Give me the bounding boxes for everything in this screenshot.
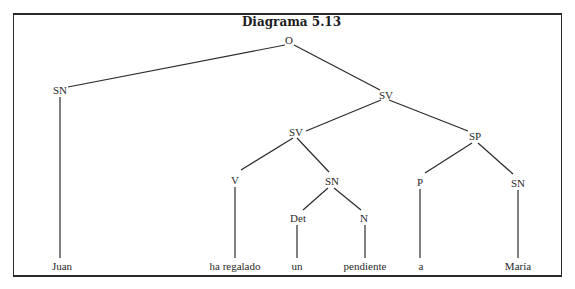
edge-sp-p xyxy=(425,143,472,173)
edge-o-sv xyxy=(294,45,380,90)
edge-sv-sn xyxy=(297,138,329,172)
leaf-juan: Juan xyxy=(52,261,72,272)
node-sv-inner: SV xyxy=(289,127,303,138)
node-p: P xyxy=(417,177,423,188)
node-v: V xyxy=(231,175,239,186)
leaf-ha-regalado: ha regalado xyxy=(210,261,261,272)
leaf-maria: María xyxy=(505,261,531,272)
edge-sv-sv xyxy=(306,100,381,131)
node-o: O xyxy=(285,35,293,46)
edge-sn-n xyxy=(334,188,361,210)
node-sn-subject: SN xyxy=(53,85,67,96)
edge-o-sn xyxy=(68,45,285,87)
leaf-pendiente: pendiente xyxy=(344,261,387,272)
edge-sp-sn xyxy=(478,143,513,174)
edge-sv-v xyxy=(241,138,293,170)
edge-sv-sp xyxy=(389,100,468,131)
node-sn-object: SN xyxy=(325,176,339,187)
node-sp: SP xyxy=(469,131,481,142)
node-n: N xyxy=(360,213,368,224)
leaf-a: a xyxy=(419,261,424,272)
edge-sn-det xyxy=(303,188,328,210)
leaf-un: un xyxy=(292,261,303,272)
node-det: Det xyxy=(290,213,306,224)
node-sn-prep-object: SN xyxy=(511,178,525,189)
node-sv-top: SV xyxy=(379,90,393,101)
